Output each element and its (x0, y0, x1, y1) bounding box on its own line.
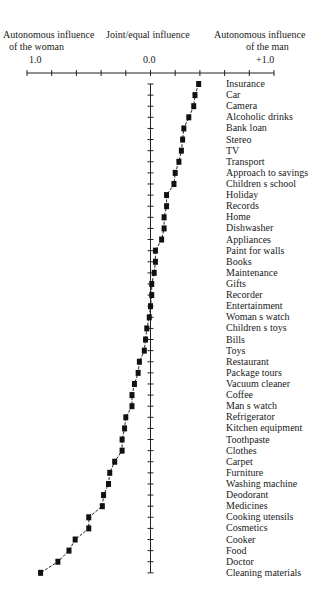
category-label: Man s watch (226, 400, 277, 411)
category-label: Furniture (226, 467, 263, 478)
category-label: Clothes (226, 445, 257, 456)
category-label: Insurance (226, 78, 265, 89)
category-label: Food (226, 545, 247, 556)
category-label: Stereo (226, 134, 252, 145)
data-point-marker (148, 303, 153, 309)
category-label: Doctor (226, 556, 254, 567)
data-point-marker (137, 359, 142, 365)
data-point-marker (100, 503, 105, 509)
category-label: Alcoholic drinks (226, 111, 293, 122)
category-label: Toys (226, 345, 245, 356)
category-label: Package tours (226, 367, 282, 378)
data-point-marker (192, 92, 197, 98)
data-point-marker (171, 181, 176, 187)
data-point-marker (180, 137, 185, 143)
category-label: Woman s watch (226, 311, 290, 322)
category-label: Children s toys (226, 322, 287, 333)
category-label: TV (226, 145, 239, 156)
data-point-marker (106, 481, 111, 487)
category-label: Cosmetics (226, 522, 268, 533)
data-point-marker (186, 114, 191, 120)
category-label: Carpet (226, 456, 253, 467)
category-label: Approach to savings (226, 167, 308, 178)
data-point-marker (129, 403, 134, 409)
data-point-marker (144, 325, 149, 331)
category-label: Bills (226, 334, 245, 345)
category-label: Deodorant (226, 489, 268, 500)
category-label: Medicines (226, 500, 268, 511)
data-point-marker (86, 525, 91, 531)
category-label: Washing machine (226, 478, 297, 489)
data-point-marker (152, 270, 157, 276)
data-markers (38, 81, 201, 576)
data-point-marker (164, 203, 169, 209)
data-point-marker (153, 248, 158, 254)
category-label: Children s school (226, 178, 296, 189)
category-label: Car (226, 89, 240, 100)
data-point-marker (173, 170, 178, 176)
category-label: Maintenance (226, 267, 278, 278)
data-point-marker (179, 148, 184, 154)
data-point-marker (159, 237, 164, 243)
category-label: Recorder (226, 289, 263, 300)
category-label: Gifts (226, 278, 246, 289)
data-point-marker (112, 459, 117, 465)
data-point-marker (129, 392, 134, 398)
data-point-marker (136, 370, 141, 376)
category-label: Bank loan (226, 122, 267, 133)
category-label: Holiday (226, 189, 258, 200)
data-point-marker (86, 514, 91, 520)
category-label: Cooker (226, 534, 255, 545)
data-point-marker (123, 414, 128, 420)
data-point-marker (120, 437, 125, 443)
data-point-marker (55, 559, 60, 565)
category-label: Restaurant (226, 356, 269, 367)
category-label: Records (226, 200, 259, 211)
category-label: Toothpaste (226, 434, 270, 445)
data-point-marker (164, 192, 169, 198)
category-label: Books (226, 256, 252, 267)
data-point-marker (101, 492, 106, 498)
data-point-marker (153, 259, 158, 265)
category-label: Vacuum cleaner (226, 378, 290, 389)
data-point-marker (132, 381, 137, 387)
data-point-marker (191, 103, 196, 109)
category-label: Paint for walls (226, 245, 284, 256)
horizontal-scale-axis (27, 70, 274, 76)
category-label: Appliances (226, 234, 271, 245)
profile-line (41, 84, 199, 573)
data-point-marker (149, 292, 154, 298)
category-label: Home (226, 211, 250, 222)
data-point-marker (196, 81, 201, 87)
data-point-marker (122, 425, 127, 431)
category-label: Coffee (226, 389, 253, 400)
category-label: Transport (226, 156, 265, 167)
data-point-marker (120, 448, 125, 454)
data-point-marker (142, 348, 147, 354)
category-label: Kitchen equipment (226, 422, 302, 433)
data-point-marker (73, 537, 78, 543)
data-point-marker (176, 159, 181, 165)
data-point-marker (38, 570, 43, 576)
data-point-marker (107, 470, 112, 476)
data-point-marker (66, 548, 71, 554)
category-label: Cooking utensils (226, 511, 294, 522)
category-label: Cleaning materials (226, 567, 301, 578)
category-label: Entertainment (226, 300, 283, 311)
data-point-marker (162, 214, 167, 220)
data-point-marker (143, 337, 148, 343)
data-point-marker (147, 314, 152, 320)
category-label: Camera (226, 100, 257, 111)
data-point-marker (162, 225, 167, 231)
category-label: Refrigerator (226, 411, 275, 422)
data-point-marker (149, 281, 154, 287)
data-point-marker (181, 125, 186, 131)
category-label: Dishwasher (226, 222, 273, 233)
